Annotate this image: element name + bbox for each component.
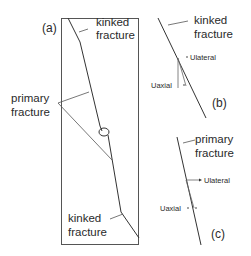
- panel-a-bottom-leader: [110, 214, 123, 219]
- panel-a-primary-leader-lower: [58, 103, 112, 160]
- panel-b-title-leader: [168, 21, 188, 25]
- panel-b-label: (b): [212, 97, 227, 110]
- panel-c-axial-dot: [187, 207, 189, 209]
- panel-c-axial-vector: [186, 180, 194, 208]
- panel-c-lateral-arrowhead: [199, 179, 202, 182]
- panel-c-lateral-label: Ulateral: [204, 176, 230, 185]
- panel-a-bottom-label-line2: fracture: [68, 226, 107, 239]
- panel-c-title-line1: primary: [195, 133, 233, 146]
- panel-a-mid-label-line2: fracture: [11, 106, 50, 119]
- panel-a-top-leader: [79, 29, 88, 32]
- panel-b-lateral-arrow-dot: [186, 56, 188, 58]
- panel-a-fracture-path-lower: [108, 135, 139, 238]
- panel-b-lateral-label: Ulateral: [190, 53, 216, 62]
- panel-c-label: (c): [211, 228, 225, 241]
- panel-a-primary-leader-upper: [58, 92, 89, 103]
- panel-b-title-line2: fracture: [194, 28, 233, 41]
- panel-b-slip-vector: [178, 58, 186, 86]
- fracture-diagram: (a) kinked fracture primary fracture kin…: [0, 0, 251, 256]
- panel-c-axial-label: Uaxial: [160, 204, 181, 213]
- panel-a-top-label-line1: kinked: [96, 16, 129, 29]
- panel-a-mid-label-line1: primary: [11, 92, 49, 105]
- panel-a-top-label-line2: fracture: [96, 29, 135, 42]
- panel-b-title-line1: kinked: [194, 14, 227, 27]
- panel-c-title-line2: fracture: [195, 147, 234, 160]
- panel-b-axial-arrow-dot: [183, 84, 185, 86]
- panel-a-label: (a): [42, 22, 57, 35]
- panel-c-title-leader: [183, 140, 195, 143]
- panel-b-axial-label: Uaxial: [151, 81, 172, 90]
- panel-a-frame: [62, 19, 139, 245]
- panel-a-flaw-ellipse: [99, 128, 109, 136]
- panel-a-bottom-label-line1: kinked: [68, 212, 101, 225]
- panel-c-axial-arrow-dot: [195, 207, 197, 209]
